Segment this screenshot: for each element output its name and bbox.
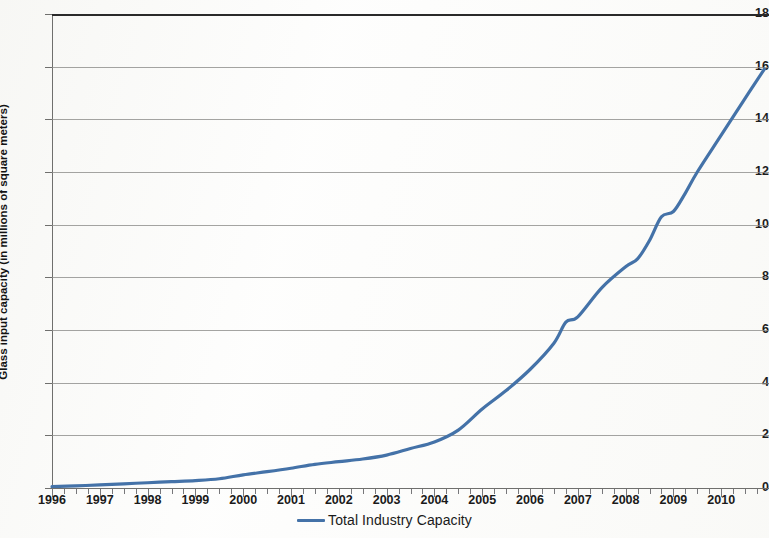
legend-line-swatch — [297, 519, 325, 522]
series-line-total-industry-capacity — [52, 14, 769, 489]
x-tick-2010.75 — [757, 489, 758, 494]
chart-figure: Glass input capacity (in millions of squ… — [0, 0, 769, 538]
y-tick-4 — [45, 383, 52, 384]
series-path — [52, 69, 764, 486]
y-tick-2 — [45, 435, 52, 436]
y-tick-8 — [45, 277, 52, 278]
y-tick-12 — [45, 172, 52, 173]
chart-legend: Total Industry Capacity — [0, 512, 769, 528]
y-tick-18 — [45, 14, 52, 15]
y-tick-6 — [45, 330, 52, 331]
legend-label-total-industry-capacity: Total Industry Capacity — [328, 512, 472, 528]
x-tick-label-2010: 2010 — [691, 494, 751, 508]
plot-area — [52, 14, 769, 488]
y-tick-14 — [45, 119, 52, 120]
y-tick-16 — [45, 67, 52, 68]
y-tick-0 — [45, 488, 52, 489]
y-axis-title: Glass input capacity (in millions of squ… — [0, 7, 9, 477]
y-tick-10 — [45, 225, 52, 226]
